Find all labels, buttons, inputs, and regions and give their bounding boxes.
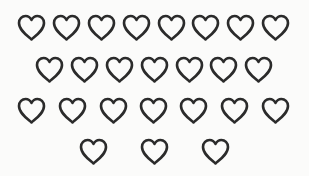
heart-outline-icon [105, 56, 134, 84]
heart-outline-icon [244, 56, 273, 84]
heart-outline-icon [201, 138, 230, 166]
heart-outline-icon [140, 56, 169, 84]
heart-outline-icon [139, 97, 168, 125]
heart-outline-icon [209, 56, 238, 84]
heart-outline-icon [175, 56, 204, 84]
heart-outline-icon [58, 97, 87, 125]
heart-outline-icon [157, 14, 186, 42]
heart-outline-icon [220, 97, 249, 125]
heart-outline-icon [70, 56, 99, 84]
hearts-canvas [0, 0, 309, 176]
heart-outline-icon [35, 56, 64, 84]
heart-outline-icon [226, 14, 255, 42]
heart-outline-icon [261, 97, 290, 125]
heart-outline-icon [261, 14, 290, 42]
heart-outline-icon [87, 14, 116, 42]
heart-outline-icon [17, 97, 46, 125]
heart-outline-icon [99, 97, 128, 125]
heart-outline-icon [191, 14, 220, 42]
heart-outline-icon [17, 14, 46, 42]
heart-outline-icon [52, 14, 81, 42]
heart-outline-icon [79, 138, 108, 166]
heart-outline-icon [179, 97, 208, 125]
heart-outline-icon [122, 14, 151, 42]
heart-outline-icon [140, 138, 169, 166]
